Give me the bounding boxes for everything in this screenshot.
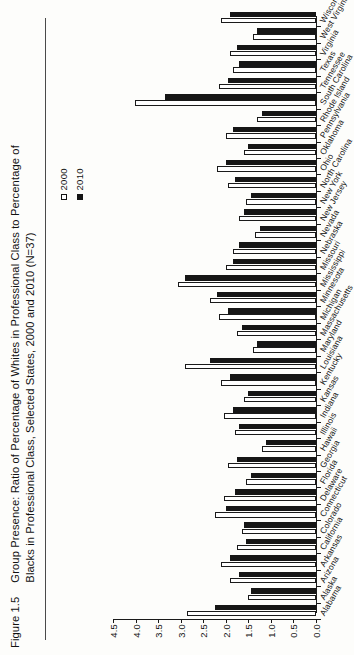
bar-2010 bbox=[246, 539, 316, 544]
category-tick bbox=[317, 76, 321, 77]
value-tick-label: 1.5 bbox=[243, 624, 254, 638]
bar-2000 bbox=[246, 479, 316, 484]
value-tick bbox=[136, 619, 137, 623]
category-tick bbox=[317, 109, 321, 110]
bar-2000 bbox=[230, 578, 316, 583]
category-tick bbox=[317, 570, 321, 571]
category-tick bbox=[317, 586, 321, 587]
chart-legend: 2000 2010 bbox=[58, 168, 85, 200]
bar-group bbox=[48, 457, 316, 470]
category-tick bbox=[317, 504, 321, 505]
bar-2010 bbox=[226, 160, 316, 165]
bar-2000 bbox=[230, 51, 316, 56]
bar-2000 bbox=[217, 166, 316, 171]
bar-2000 bbox=[237, 331, 316, 336]
bar-group bbox=[48, 78, 316, 91]
bar-2000 bbox=[257, 117, 316, 122]
category-tick bbox=[317, 240, 321, 241]
value-tick-label: 2.0 bbox=[221, 624, 232, 638]
bar-2000 bbox=[215, 512, 317, 517]
category-tick bbox=[317, 306, 321, 307]
bar-2010 bbox=[228, 78, 316, 83]
bar-2010 bbox=[239, 424, 316, 429]
bar-2000 bbox=[224, 496, 316, 501]
chart-plot-area: 0.00.51.01.52.02.53.03.54.04.5 AlabamaAl… bbox=[48, 0, 354, 655]
bar-2000 bbox=[187, 611, 316, 616]
value-axis-line bbox=[113, 619, 317, 620]
bar-2000 bbox=[135, 100, 316, 105]
bar-group bbox=[48, 226, 316, 239]
bar-group bbox=[48, 374, 316, 387]
bar-2000 bbox=[226, 133, 316, 138]
bar-group bbox=[48, 193, 316, 206]
bar-group bbox=[48, 572, 316, 585]
bar-2000 bbox=[233, 67, 316, 72]
bar-2010 bbox=[248, 391, 316, 396]
category-tick bbox=[317, 553, 321, 554]
bar-2010 bbox=[230, 374, 316, 379]
category-tick bbox=[317, 257, 321, 258]
bar-2010 bbox=[260, 226, 316, 231]
category-tick bbox=[317, 142, 321, 143]
bar-2010 bbox=[244, 522, 316, 527]
category-tick bbox=[317, 356, 321, 357]
caption-divider-rule bbox=[45, 18, 46, 640]
bar-group bbox=[48, 61, 316, 74]
bar-2000 bbox=[219, 314, 316, 319]
bar-2000 bbox=[221, 18, 316, 23]
bar-group bbox=[48, 308, 316, 321]
legend-label-2010: 2010 bbox=[74, 168, 85, 191]
bar-2010 bbox=[233, 127, 316, 132]
value-tick-label: 3.5 bbox=[153, 624, 164, 638]
bar-2010 bbox=[230, 12, 316, 17]
category-tick bbox=[317, 537, 321, 538]
bar-group bbox=[48, 45, 316, 58]
category-tick bbox=[317, 224, 321, 225]
value-tick bbox=[293, 619, 294, 623]
bar-2010 bbox=[228, 308, 316, 313]
bar-2010 bbox=[262, 111, 316, 116]
bar-2010 bbox=[239, 61, 316, 66]
bar-group bbox=[48, 358, 316, 371]
bar-2010 bbox=[239, 572, 316, 577]
bar-2000 bbox=[237, 545, 316, 550]
value-tick bbox=[226, 619, 227, 623]
category-tick bbox=[317, 603, 321, 604]
bar-group bbox=[48, 539, 316, 552]
bar-2000 bbox=[226, 265, 316, 270]
bar-group bbox=[48, 292, 316, 305]
value-tick-label: 4.5 bbox=[108, 624, 119, 638]
bar-2010 bbox=[237, 457, 316, 462]
bar-2000 bbox=[244, 150, 316, 155]
legend-item-2000: 2000 bbox=[58, 168, 69, 200]
bar-2010 bbox=[185, 275, 316, 280]
bar-group bbox=[48, 242, 316, 255]
category-tick bbox=[317, 323, 321, 324]
figure-number: Figure 1.5 bbox=[8, 596, 23, 647]
value-tick bbox=[203, 619, 204, 623]
category-tick bbox=[317, 619, 321, 620]
bar-group bbox=[48, 160, 316, 173]
bar-2000 bbox=[221, 380, 316, 385]
bar-2010 bbox=[165, 94, 316, 99]
bar-group bbox=[48, 588, 316, 601]
figure-caption-block: Figure 1.5 Group Presence: Ratio of Perc… bbox=[0, 0, 46, 655]
bar-group bbox=[48, 605, 316, 618]
bar-2000 bbox=[185, 364, 316, 369]
category-tick bbox=[317, 207, 321, 208]
bar-2010 bbox=[237, 45, 316, 50]
bar-2000 bbox=[228, 463, 316, 468]
legend-swatch-2000-square-icon bbox=[61, 194, 67, 200]
bar-group bbox=[48, 275, 316, 288]
value-tick bbox=[181, 619, 182, 623]
value-tick bbox=[113, 619, 114, 623]
category-tick bbox=[317, 125, 321, 126]
value-tick-label: 3.0 bbox=[176, 624, 187, 638]
bar-group bbox=[48, 12, 316, 25]
bar-2000 bbox=[210, 298, 316, 303]
bar-2000 bbox=[239, 216, 316, 221]
category-tick bbox=[317, 174, 321, 175]
bar-group bbox=[48, 325, 316, 338]
bar-group bbox=[48, 555, 316, 568]
bar-group bbox=[48, 127, 316, 140]
